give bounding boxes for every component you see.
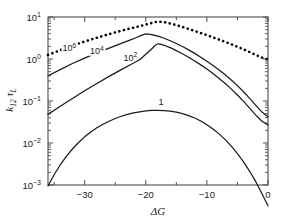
x-axis-title-text: ΔG [150,205,165,217]
x-axis-title: ΔG [150,205,165,217]
x-tick-label: 0 [265,189,270,200]
figure-container: −30−20−100 10110010−110−210−3 1061061041… [0,0,286,224]
x-tick-label: −30 [77,189,93,200]
x-tick-label: −20 [138,189,154,200]
x-tick-label: −10 [199,189,215,200]
curve-label-1: 1 [159,97,164,107]
chart-svg: −30−20−100 10110010−110−210−3 1061061041… [0,0,286,224]
